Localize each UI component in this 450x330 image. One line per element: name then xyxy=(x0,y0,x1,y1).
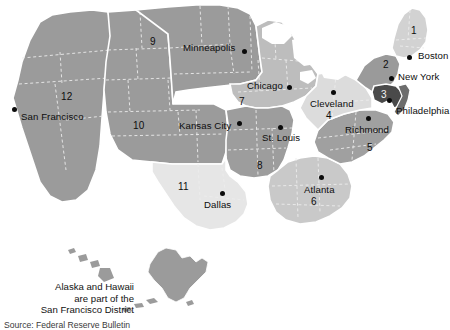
city-dot-atlanta xyxy=(319,175,324,180)
alaska-hawaii-annotation: Alaska and Hawaii are part of the San Fr… xyxy=(4,281,134,316)
hawaii-inset xyxy=(68,248,114,282)
city-dot-san-francisco xyxy=(12,107,17,112)
district-12-region xyxy=(13,10,112,202)
alaska-inset xyxy=(148,248,208,302)
map-landmass-group xyxy=(13,5,428,312)
annotation-line-3: San Francisco District xyxy=(4,304,134,316)
city-dot-new-york xyxy=(389,76,394,81)
city-dot-st-louis xyxy=(278,125,283,130)
city-dot-cleveland xyxy=(331,90,336,95)
district-1-region xyxy=(392,8,428,58)
city-dot-richmond xyxy=(366,116,371,121)
annotation-line-1: Alaska and Hawaii xyxy=(4,281,134,293)
city-dot-dallas xyxy=(220,191,225,196)
city-dot-philadelphia xyxy=(387,98,392,103)
annotation-line-2: are part of the xyxy=(4,293,134,305)
city-dot-minneapolis xyxy=(242,49,247,54)
city-dot-boston xyxy=(407,55,412,60)
city-dot-kansas-city xyxy=(237,121,242,126)
city-dot-chicago xyxy=(287,85,292,90)
source-note: Source: Federal Reserve Bulletin xyxy=(4,320,130,330)
